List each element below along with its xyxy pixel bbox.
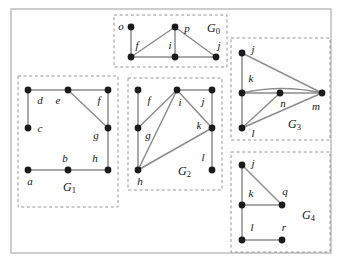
vertex-label-g4-q: q [282, 185, 288, 197]
vertex-g0-j[interactable] [213, 54, 220, 61]
edge-g1-e-g [68, 90, 108, 128]
vertex-label-g0-i: i [168, 39, 171, 51]
group-label-g3: G3 [288, 117, 301, 132]
vertex-g1-h[interactable] [105, 167, 112, 174]
vertex-g3-j[interactable] [239, 50, 246, 57]
vertex-g2-h[interactable] [135, 167, 142, 174]
vertex-label-g1-h: h [92, 152, 98, 164]
vertex-label-g2-k: k [197, 119, 203, 131]
vertex-label-g1-a: a [27, 175, 33, 187]
vertex-g0-i[interactable] [172, 54, 179, 61]
vertex-label-g2-g: g [145, 129, 151, 141]
subgraph-g1: defcgabhG1 [18, 76, 118, 207]
vertex-g0-o[interactable] [128, 24, 135, 31]
edge-g2-h-i [138, 90, 177, 170]
vertex-g2-f[interactable] [135, 87, 142, 94]
vertex-g4-k[interactable] [239, 202, 246, 209]
vertex-label-g1-f: f [97, 94, 102, 106]
graph-figure: opfijG0defcgabhG1fijgkhlG2jknmlG3jkqlrG4 [0, 0, 339, 266]
vertex-g3-n[interactable] [277, 90, 284, 97]
subgraph-g2: fijgkhlG2 [128, 78, 222, 190]
vertex-g2-l[interactable] [209, 167, 216, 174]
group-label-g1: G1 [63, 180, 76, 195]
graph-canvas: opfijG0defcgabhG1fijgkhlG2jknmlG3jkqlrG4 [0, 0, 339, 266]
vertex-label-g2-f: f [147, 94, 152, 106]
edge-g3-l-n [242, 93, 280, 128]
vertex-label-g1-b: b [62, 152, 68, 164]
vertex-label-g2-h: h [137, 175, 143, 187]
vertex-g1-b[interactable] [65, 167, 72, 174]
vertex-label-g1-c: c [38, 122, 43, 134]
edge-g2-i-k [177, 90, 212, 128]
vertex-g2-i[interactable] [174, 87, 181, 94]
vertex-label-g3-l: l [251, 127, 254, 139]
vertex-g4-j[interactable] [239, 162, 246, 169]
vertex-g4-r[interactable] [279, 237, 286, 244]
vertex-g2-g[interactable] [135, 125, 142, 132]
vertex-g1-d[interactable] [25, 87, 32, 94]
vertex-label-g4-r: r [282, 221, 287, 233]
vertex-label-g1-e: e [56, 94, 61, 106]
vertex-label-g3-j: j [249, 43, 254, 55]
vertex-label-g2-i: i [178, 96, 181, 108]
vertex-g1-f[interactable] [105, 87, 112, 94]
vertex-label-g2-j: j [199, 95, 204, 107]
vertex-label-g2-l: l [201, 151, 204, 163]
vertex-g4-q[interactable] [279, 202, 286, 209]
subgraph-g0: opfijG0 [114, 15, 227, 67]
group-label-g0: G0 [207, 21, 220, 36]
vertex-g3-l[interactable] [239, 125, 246, 132]
vertex-g1-e[interactable] [65, 87, 72, 94]
vertex-label-g4-j: j [249, 157, 254, 169]
edge-g3-j-m [242, 53, 322, 93]
group-label-g2: G2 [178, 164, 191, 179]
vertex-label-g4-l: l [250, 221, 253, 233]
vertex-g0-f[interactable] [128, 54, 135, 61]
vertex-label-g0-f: f [135, 39, 140, 51]
vertex-g4-l[interactable] [239, 237, 246, 244]
vertex-label-g1-g: g [93, 129, 99, 141]
vertex-label-g1-d: d [37, 94, 43, 106]
edge-g4-j-q [242, 165, 282, 205]
edge-g2-g-i [138, 90, 177, 128]
vertex-label-g3-n: n [280, 97, 286, 109]
vertex-g3-k[interactable] [239, 90, 246, 97]
vertex-g2-k[interactable] [209, 125, 216, 132]
vertex-label-g0-o: o [118, 20, 124, 32]
vertex-label-g0-j: j [215, 39, 220, 51]
vertex-label-g3-k: k [249, 72, 255, 84]
subgraph-g3: jknmlG3 [231, 38, 330, 140]
vertex-g1-a[interactable] [25, 167, 32, 174]
vertex-g3-m[interactable] [319, 90, 326, 97]
subgraph-g4: jkqlrG4 [231, 152, 330, 252]
vertex-g1-g[interactable] [105, 125, 112, 132]
vertex-g0-p[interactable] [172, 24, 179, 31]
group-label-g4: G4 [302, 208, 316, 223]
vertex-g2-j[interactable] [209, 87, 216, 94]
vertex-label-g4-k: k [249, 187, 255, 199]
vertex-g1-c[interactable] [25, 125, 32, 132]
vertex-label-g3-m: m [312, 100, 320, 112]
vertex-label-g0-p: p [183, 22, 190, 34]
